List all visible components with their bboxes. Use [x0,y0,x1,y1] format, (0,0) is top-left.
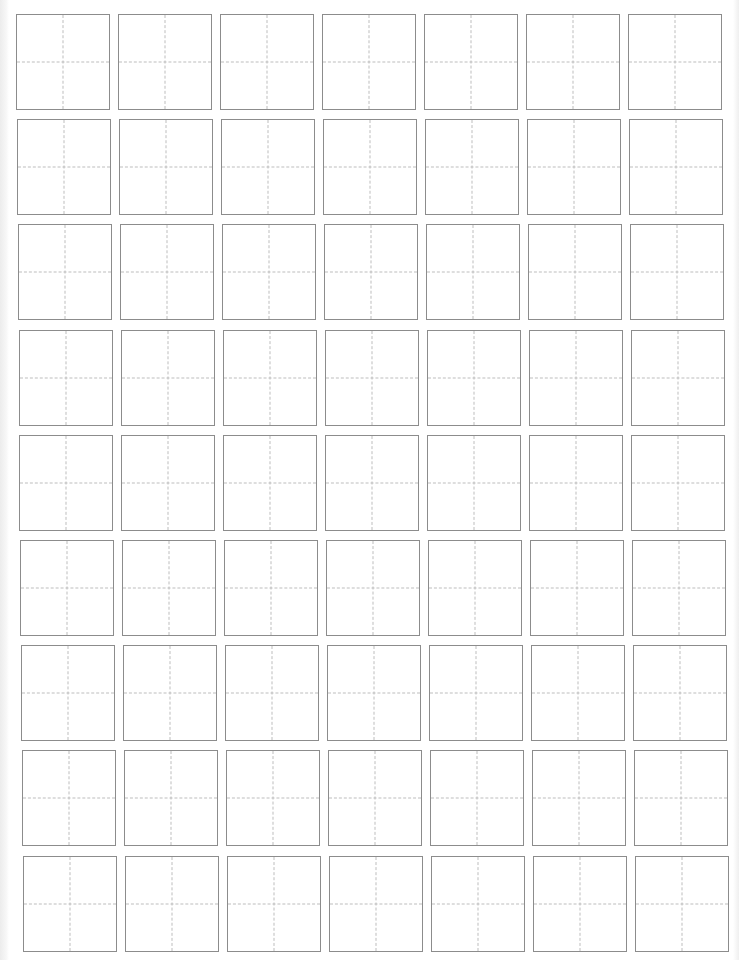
cell-character [428,331,520,425]
practice-cell[interactable] [532,750,626,846]
practice-cell[interactable] [223,330,317,426]
practice-cell[interactable] [328,750,422,846]
cell-character [221,15,313,109]
practice-cell[interactable] [429,645,523,741]
cell-character [228,857,320,951]
cell-character [632,331,724,425]
cell-character [634,646,726,740]
practice-cell[interactable] [529,330,623,426]
practice-cell[interactable] [428,540,522,636]
practice-cell[interactable] [329,856,423,952]
cell-character [427,225,519,319]
cell-character [224,331,316,425]
practice-cell[interactable] [629,119,723,215]
practice-cell[interactable] [529,435,623,531]
practice-cell[interactable] [221,119,315,215]
cell-character [533,751,625,845]
practice-cell[interactable] [326,540,420,636]
practice-cell[interactable] [123,645,217,741]
practice-cell[interactable] [630,224,724,320]
practice-cell[interactable] [119,119,213,215]
practice-cell[interactable] [226,750,320,846]
practice-cell[interactable] [17,119,111,215]
cell-character [122,331,214,425]
practice-cell[interactable] [527,119,621,215]
practice-cell[interactable] [16,14,110,110]
cell-character [18,120,110,214]
cell-character [323,15,415,109]
cell-character [431,751,523,845]
practice-cell[interactable] [634,750,728,846]
practice-cell[interactable] [631,330,725,426]
practice-cell[interactable] [227,856,321,952]
cell-character [120,120,212,214]
practice-cell[interactable] [23,856,117,952]
practice-cell[interactable] [322,14,416,110]
cell-character [426,120,518,214]
cell-character [631,225,723,319]
cell-character [225,541,317,635]
cell-character [119,15,211,109]
cell-character [326,331,418,425]
cell-character [633,541,725,635]
practice-cell[interactable] [424,14,518,110]
cell-character [330,857,422,951]
cell-character [632,436,724,530]
cell-character [527,15,619,109]
practice-cell[interactable] [124,750,218,846]
cell-character [430,646,522,740]
practice-cell[interactable] [425,119,519,215]
practice-cell[interactable] [533,856,627,952]
practice-cell[interactable] [120,224,214,320]
cell-character [17,15,109,109]
cell-character [630,120,722,214]
practice-cell[interactable] [635,856,729,952]
practice-cell[interactable] [20,540,114,636]
cell-character [21,541,113,635]
practice-cell[interactable] [324,224,418,320]
practice-cell[interactable] [220,14,314,110]
cell-character [629,15,721,109]
cell-character [121,225,213,319]
practice-cell[interactable] [122,540,216,636]
practice-cell[interactable] [125,856,219,952]
practice-cell[interactable] [225,645,319,741]
practice-cell[interactable] [430,750,524,846]
practice-cell[interactable] [19,330,113,426]
cell-character [328,646,420,740]
practice-cell[interactable] [323,119,417,215]
cell-character [325,225,417,319]
practice-cell[interactable] [632,540,726,636]
practice-cell[interactable] [528,224,622,320]
practice-cell[interactable] [526,14,620,110]
practice-cell[interactable] [531,645,625,741]
practice-cell[interactable] [21,645,115,741]
practice-cell[interactable] [222,224,316,320]
practice-cell[interactable] [118,14,212,110]
cell-character [428,436,520,530]
practice-cell[interactable] [633,645,727,741]
cell-character [429,541,521,635]
practice-cell[interactable] [18,224,112,320]
cell-character [529,225,621,319]
practice-cell[interactable] [325,330,419,426]
practice-cell[interactable] [223,435,317,531]
practice-cell[interactable] [19,435,113,531]
practice-cell[interactable] [426,224,520,320]
cell-character [126,857,218,951]
practice-cell[interactable] [427,435,521,531]
practice-cell[interactable] [22,750,116,846]
practice-cell[interactable] [121,330,215,426]
cell-character [534,857,626,951]
practice-cell[interactable] [224,540,318,636]
cell-character [19,225,111,319]
practice-cell[interactable] [631,435,725,531]
practice-cell[interactable] [628,14,722,110]
practice-cell[interactable] [427,330,521,426]
practice-cell[interactable] [530,540,624,636]
practice-cell[interactable] [327,645,421,741]
practice-cell[interactable] [431,856,525,952]
practice-cell[interactable] [325,435,419,531]
cell-character [532,646,624,740]
practice-cell[interactable] [121,435,215,531]
